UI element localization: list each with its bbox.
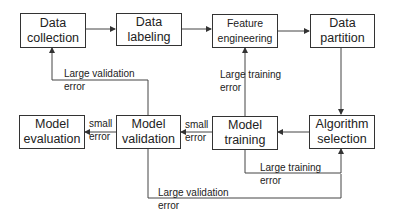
- edge-label-line: small: [89, 117, 112, 130]
- node-label: Feature: [218, 16, 273, 31]
- edge-label-training-to-validation: small error: [185, 118, 208, 144]
- node-label: evaluation: [24, 132, 81, 147]
- node-label: Algorithm: [316, 117, 369, 132]
- edge-label-line: Large training: [220, 68, 281, 81]
- node-label: Model: [122, 117, 175, 132]
- edge-label-line: error: [158, 199, 229, 212]
- node-label: labeling: [127, 30, 170, 45]
- node-label: Data: [320, 16, 364, 31]
- edge-label-line: Large training: [260, 161, 321, 174]
- edge-label-validation-to-evaluation: small error: [89, 117, 112, 143]
- node-data-collection: Datacollection: [20, 13, 86, 48]
- node-label: Model: [24, 117, 81, 132]
- node-label: selection: [316, 132, 369, 147]
- node-label: Data: [127, 15, 170, 30]
- edge-label-line: error: [89, 130, 112, 143]
- node-label: validation: [122, 132, 175, 147]
- node-label: engineering: [218, 31, 273, 46]
- node-data-partition: Datapartition: [310, 14, 375, 48]
- node-model-evaluation: Modelevaluation: [19, 115, 85, 149]
- edge-label-line: Large validation: [158, 186, 229, 199]
- edge-label-validation-to-collection: Large validation error: [64, 67, 135, 93]
- edge-label-line: error: [185, 131, 208, 144]
- edge-label-line: error: [64, 80, 135, 93]
- edge-label-line: error: [220, 81, 281, 94]
- edge-label-training-to-algorithm: Large training error: [260, 161, 321, 187]
- edge-label-line: Large validation: [64, 67, 135, 80]
- node-feature-engineering: Featureengineering: [212, 14, 278, 48]
- node-label: Model: [225, 118, 266, 133]
- edge-label-line: small: [185, 118, 208, 131]
- node-label: Data: [27, 16, 79, 31]
- edge-label-training-to-feature: Large training error: [220, 68, 281, 94]
- node-label: partition: [320, 31, 364, 46]
- node-label: collection: [27, 31, 79, 46]
- node-algorithm-selection: Algorithmselection: [309, 115, 375, 149]
- node-data-labeling: Datalabeling: [116, 13, 182, 46]
- node-label: training: [225, 133, 266, 148]
- node-model-validation: Modelvalidation: [116, 115, 181, 149]
- node-model-training: Modeltraining: [212, 116, 278, 150]
- edge-label-line: error: [260, 174, 321, 187]
- edge-label-validation-to-algorithm: Large validation error: [158, 186, 229, 212]
